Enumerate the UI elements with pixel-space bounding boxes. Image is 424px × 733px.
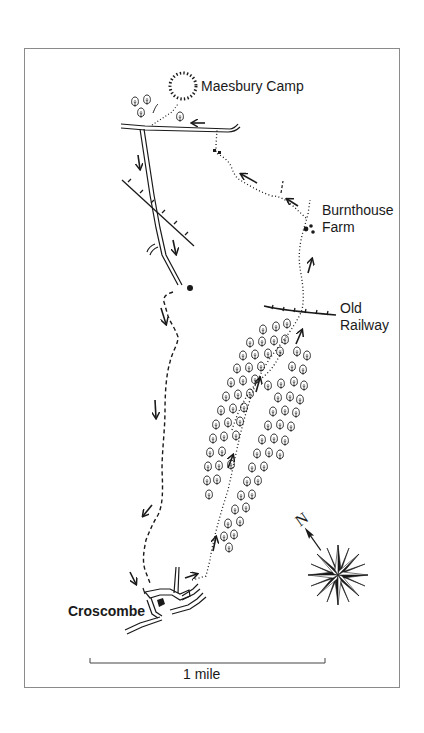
direction-arrow-north-5 <box>308 259 312 273</box>
compass-north-label: N <box>292 509 312 530</box>
direction-arrow-south-1 <box>138 155 140 169</box>
croscombe-roads <box>125 567 206 634</box>
scale-label: 1 mile <box>183 666 220 682</box>
route-map: N <box>0 0 424 733</box>
woodland-icon-west <box>204 319 291 500</box>
farm-buildings-north-icon <box>213 149 221 154</box>
place-label-burnthouse: Burnthouse <box>322 202 394 219</box>
maesbury-camp-hillfort-icon <box>170 73 196 99</box>
building-icon <box>187 285 193 291</box>
compass-rose-icon <box>302 526 368 605</box>
direction-arrow-north-1 <box>213 537 216 551</box>
track-spur <box>281 181 283 193</box>
scale-bar <box>90 658 325 663</box>
road-north <box>121 124 240 132</box>
place-label-burnthouse-farm: Farm <box>322 219 355 236</box>
place-label-old: Old <box>340 300 362 317</box>
direction-arrow-south-2 <box>173 240 176 254</box>
place-label-railway: Railway <box>340 317 389 334</box>
route-west-dashed <box>143 292 178 583</box>
direction-arrow-south-4 <box>155 400 156 418</box>
direction-arrow-northwest-2 <box>241 174 257 183</box>
direction-arrow-northwest-1 <box>287 199 298 206</box>
place-label-croscombe: Croscombe <box>68 603 145 620</box>
direction-arrow-east <box>185 574 197 578</box>
woodland-icon-camp <box>132 95 184 122</box>
direction-arrow-southeast <box>130 572 136 584</box>
direction-arrow-south-3 <box>161 308 166 324</box>
croscombe-church-icon <box>157 598 165 607</box>
direction-arrow-north-4 <box>296 330 302 344</box>
place-label-maesbury-camp: Maesbury Camp <box>201 78 304 95</box>
burnthouse-farm-buildings-icon <box>304 224 315 234</box>
direction-arrow-southwest <box>143 505 152 516</box>
road-south <box>140 129 182 285</box>
